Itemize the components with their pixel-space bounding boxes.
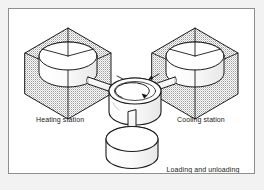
cooling-station-label: Cooling station bbox=[177, 115, 225, 124]
loading-station-workpiece bbox=[106, 126, 158, 168]
heating-station-label: Heating station bbox=[36, 115, 84, 124]
loading-station-label: Loading and unloadingstation bbox=[166, 165, 240, 174]
figure-root: Heating station Cooling station Loading … bbox=[0, 0, 264, 190]
loading-station-label-line-1: Loading and unloading bbox=[167, 166, 240, 173]
rotary-machine-illustration bbox=[9, 9, 254, 173]
figure-frame: Heating station Cooling station Loading … bbox=[8, 8, 255, 174]
